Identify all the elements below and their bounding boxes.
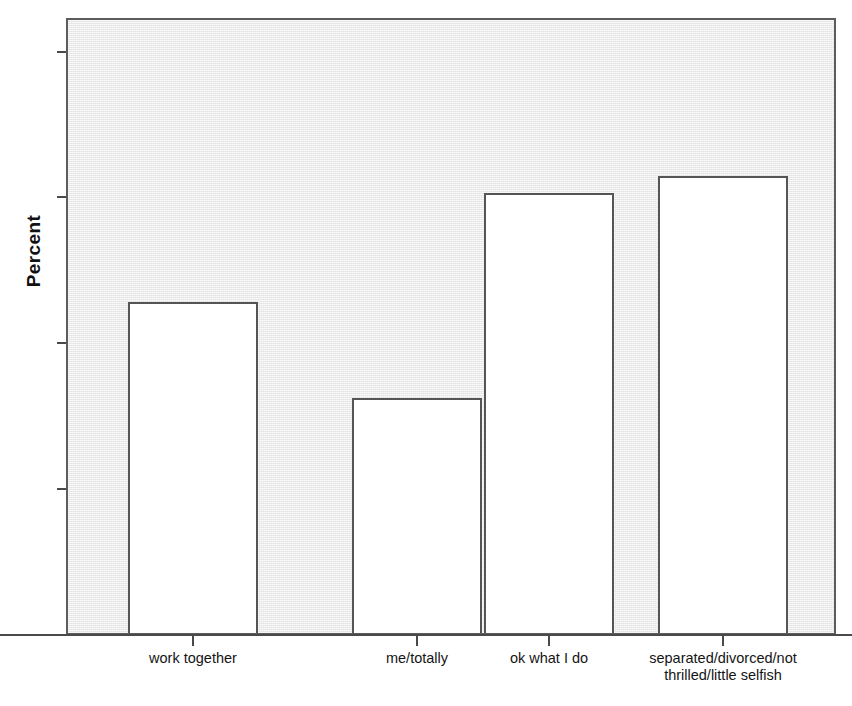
bar-chart-figure: Percent 010203040 work togetherme/totall… [0,0,852,706]
y-axis-tick-mark [57,342,66,344]
y-axis-title: Percent [23,171,45,331]
y-axis-tick-mark [57,51,66,53]
y-axis-tick-mark [57,196,66,198]
x-axis-baseline [0,634,852,636]
y-axis-tick-mark [57,488,66,490]
x-axis-tick-mark [416,635,418,646]
x-axis-category-label: separated/divorced/not thrilled/little s… [613,650,833,684]
bar [128,302,258,633]
x-axis-tick-mark [722,635,724,646]
x-axis-tick-mark [548,635,550,646]
bars-layer [68,20,834,633]
x-axis-tick-mark [192,635,194,646]
bar [484,193,614,634]
bar [352,398,482,633]
plot-area [66,18,836,635]
bar [658,176,788,633]
x-axis-category-label: work together [83,650,303,667]
